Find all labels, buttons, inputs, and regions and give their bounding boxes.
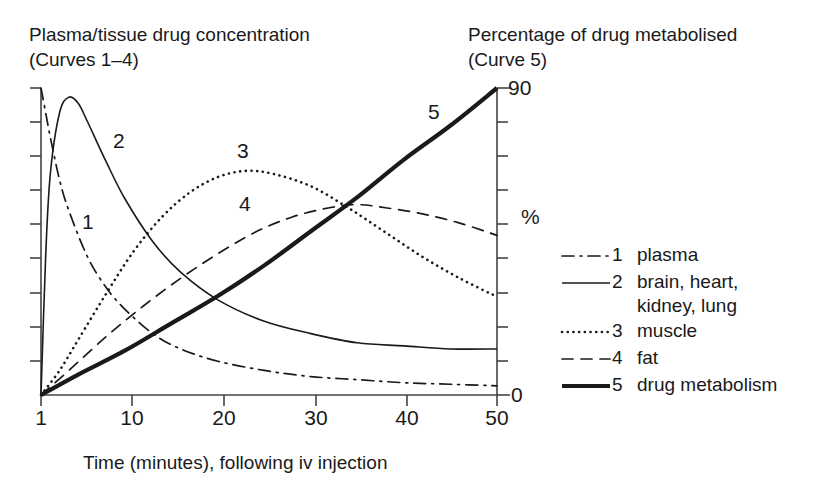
legend-item-2[interactable]: 2brain, heart, kidney, lung bbox=[560, 270, 822, 318]
legend-item-4[interactable]: 4fat bbox=[560, 346, 822, 372]
legend-number-2: 2 bbox=[612, 270, 630, 294]
legend-label-3: muscle bbox=[637, 319, 697, 343]
x-tick-label-50: 50 bbox=[472, 406, 522, 430]
curve-3 bbox=[41, 171, 497, 395]
curve-5 bbox=[41, 88, 497, 395]
curve-1 bbox=[41, 88, 497, 386]
legend-number-4: 4 bbox=[612, 346, 630, 370]
legend-item-1[interactable]: 1plasma bbox=[560, 243, 822, 269]
x-tick-label-40: 40 bbox=[382, 406, 432, 430]
curve-label-3: 3 bbox=[237, 139, 249, 163]
curve-label-2: 2 bbox=[113, 129, 125, 153]
legend-label-4: fat bbox=[637, 346, 658, 370]
legend-label-1: plasma bbox=[637, 243, 698, 267]
legend-item-3[interactable]: 3muscle bbox=[560, 319, 822, 345]
legend-line-sample-3 bbox=[560, 319, 612, 343]
curve-label-4: 4 bbox=[239, 192, 251, 216]
x-axis-ticks bbox=[41, 395, 497, 406]
right-axis-label-90: 90 bbox=[508, 76, 568, 100]
legend-label-5: drug metabolism bbox=[637, 373, 777, 397]
x-axis-caption: Time (minutes), following iv injection bbox=[83, 452, 387, 474]
curve-4 bbox=[41, 205, 497, 395]
percent-unit-label: % bbox=[521, 205, 540, 229]
legend-item-5[interactable]: 5drug metabolism bbox=[560, 373, 822, 399]
legend-line-sample-1 bbox=[560, 243, 612, 267]
x-tick-label-30: 30 bbox=[291, 406, 341, 430]
legend-line-sample-4 bbox=[560, 346, 612, 370]
x-tick-label-1: 1 bbox=[16, 406, 66, 430]
x-tick-label-10: 10 bbox=[107, 406, 157, 430]
legend-label-2: brain, heart, kidney, lung bbox=[637, 270, 738, 318]
legend: 1plasma2brain, heart, kidney, lung3muscl… bbox=[560, 243, 822, 400]
right-axis-ticks bbox=[497, 88, 510, 395]
legend-line-sample-5 bbox=[560, 373, 612, 397]
x-tick-label-20: 20 bbox=[199, 406, 249, 430]
curve-group bbox=[41, 88, 497, 395]
legend-number-1: 1 bbox=[612, 243, 630, 267]
left-axis-ticks bbox=[30, 88, 41, 361]
curve-label-5: 5 bbox=[428, 100, 440, 124]
legend-line-sample-2 bbox=[560, 270, 612, 294]
legend-number-3: 3 bbox=[612, 319, 630, 343]
curve-label-1: 1 bbox=[82, 210, 94, 234]
chart-figure: Plasma/tissue drug concentration (Curves… bbox=[0, 0, 826, 496]
legend-number-5: 5 bbox=[612, 373, 630, 397]
